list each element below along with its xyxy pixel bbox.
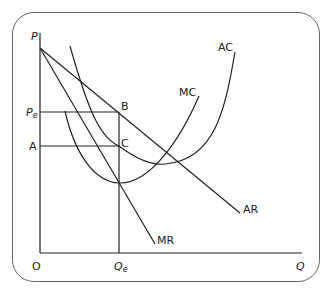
- point-b-label: B: [121, 100, 129, 113]
- mr-label: MR: [157, 234, 174, 247]
- y-axis-label: P: [31, 30, 38, 43]
- point-c-label: C: [121, 137, 129, 150]
- monopoly-diagram: P Q O Pe A Qe B C AC MC AR MR: [0, 0, 331, 296]
- a-label: A: [29, 140, 37, 153]
- ar-label: AR: [243, 203, 259, 216]
- mc-label: MC: [179, 86, 196, 99]
- qe-label: Qe: [114, 260, 128, 274]
- x-axis-label: Q: [296, 260, 305, 273]
- ac-label: AC: [218, 41, 233, 54]
- mc-curve: [65, 96, 199, 183]
- pe-label: Pe: [26, 106, 38, 120]
- origin-label: O: [32, 260, 41, 273]
